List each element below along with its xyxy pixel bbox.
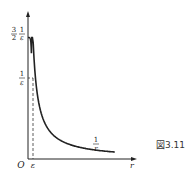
x-axis-label: r xyxy=(130,161,135,170)
origin-label: O xyxy=(17,160,25,170)
y-axis-arrow xyxy=(26,11,30,17)
svg-text:3: 3 xyxy=(12,26,16,34)
svg-text:r: r xyxy=(94,145,98,153)
curve-one-over-r xyxy=(28,38,115,153)
figure-caption: 図3.11 xyxy=(156,140,185,150)
svg-text:1: 1 xyxy=(20,26,24,34)
svg-text:ε: ε xyxy=(20,79,24,87)
svg-text:1: 1 xyxy=(20,70,24,78)
y-tick-label-1-over-epsilon: 1 ε xyxy=(19,70,25,87)
svg-text:ε: ε xyxy=(20,34,24,42)
figure-diagram: 3 2 1 ε 1 ε 1 r O ε r 図3.11 xyxy=(0,0,194,179)
y-tick-label-3-over-2-epsilon: 3 2 1 ε xyxy=(11,26,25,42)
svg-text:1: 1 xyxy=(94,136,98,144)
x-tick-label-epsilon: ε xyxy=(31,161,35,170)
svg-text:2: 2 xyxy=(12,34,16,42)
